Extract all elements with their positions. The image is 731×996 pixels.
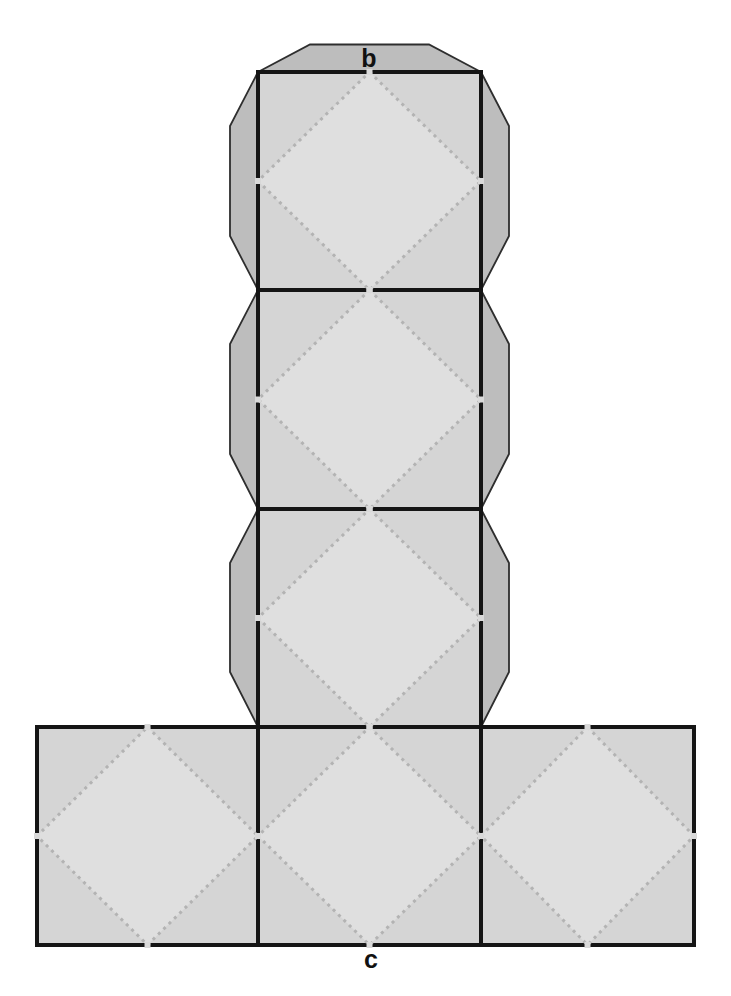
fold-vertex-notch [34, 833, 40, 839]
fold-vertex-notch [691, 833, 697, 839]
fold-vertex-notch [585, 724, 591, 730]
fold-vertex-notch [255, 178, 261, 184]
label-b: b [361, 44, 376, 72]
fold-vertex-notch [367, 287, 373, 293]
glue-tab-left-3 [230, 509, 258, 727]
fold-vertex-notch [367, 69, 373, 75]
fold-vertex-notch [145, 724, 151, 730]
fold-vertex-notch [255, 833, 261, 839]
fold-vertex-notch [478, 178, 484, 184]
fold-vertex-notch [367, 942, 373, 948]
worksheet-figure-page: b c [0, 0, 731, 996]
fold-vertex-notch [145, 942, 151, 948]
fold-vertex-notch [585, 942, 591, 948]
label-c: c [364, 945, 378, 973]
fold-vertex-notch [367, 724, 373, 730]
fold-vertex-notch [255, 397, 261, 403]
fold-vertex-notch [478, 833, 484, 839]
glue-tab-left-2 [230, 290, 258, 509]
fold-vertex-notch [478, 397, 484, 403]
glue-tab-left-1 [230, 72, 258, 290]
cube-net-figure: b c [0, 0, 731, 996]
glue-tab-right-1 [481, 72, 509, 290]
fold-vertex-notch [478, 615, 484, 621]
fold-vertex-notch [255, 615, 261, 621]
glue-tab-right-2 [481, 290, 509, 509]
glue-tab-right-3 [481, 509, 509, 727]
fold-vertex-notch [367, 506, 373, 512]
